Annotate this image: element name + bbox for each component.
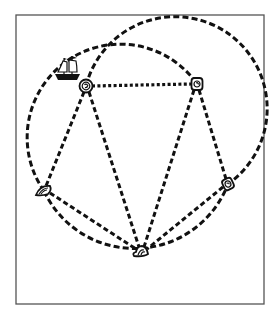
- node-a[interactable]: [80, 80, 93, 93]
- rose-knot-icon: [192, 78, 203, 90]
- rose-knot-icon: [80, 80, 93, 93]
- route-diagram: [0, 0, 280, 323]
- node-b[interactable]: [192, 78, 203, 90]
- diagram-frame: [16, 15, 264, 304]
